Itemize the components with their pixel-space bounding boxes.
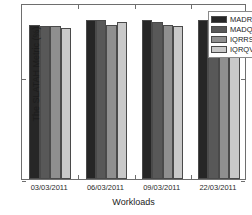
bar-madqvf-1: [40, 26, 50, 179]
chart-legend: MADRS MADQVF IQRRS IQRQVF: [208, 11, 252, 58]
legend-swatch-madrs: [211, 16, 227, 23]
plot-area: 05 The SLATAH Metric (%) MADRS MADQVF IQ…: [21, 4, 246, 180]
bar-madrs-4: [198, 20, 208, 179]
bar-madqvf-2: [96, 20, 106, 179]
legend-item[interactable]: IQRRS: [211, 35, 252, 45]
legend-item[interactable]: IQRQVF: [211, 45, 252, 55]
bar-iqrrs-1: [50, 26, 60, 179]
legend-swatch-madqvf: [211, 26, 227, 33]
bar-iqrqvf-3: [173, 26, 183, 179]
legend-swatch-iqrrs: [211, 36, 227, 43]
x-axis-tick-labels: 03/03/201106/03/201109/03/201122/03/2011: [21, 182, 246, 196]
legend-label-iqrrs: IQRRS: [230, 35, 252, 44]
bar-madrs-3: [142, 20, 152, 179]
bar-iqrqvf-1: [61, 28, 71, 179]
bar-iqrrs-2: [106, 25, 116, 180]
y-axis-label: The SLATAH Metric (%): [31, 4, 41, 144]
x-tick-label: 06/03/2011: [77, 182, 133, 196]
legend-label-iqrqvf: IQRQVF: [230, 45, 252, 54]
x-tick-label: 09/03/2011: [134, 182, 190, 196]
legend-item[interactable]: MADQVF: [211, 25, 252, 35]
legend-swatch-iqrqvf: [211, 46, 227, 53]
legend-label-madqvf: MADQVF: [230, 25, 252, 34]
x-tick-label: 22/03/2011: [190, 182, 246, 196]
figure-canvas: 05 The SLATAH Metric (%) MADRS MADQVF IQ…: [0, 0, 252, 215]
legend-label-madrs: MADRS: [230, 15, 252, 24]
x-tick-label: 03/03/2011: [21, 182, 77, 196]
bar-madqvf-3: [152, 22, 162, 179]
bar-madrs-2: [86, 20, 96, 179]
bar-iqrrs-3: [163, 25, 173, 180]
x-axis-label: Workloads: [21, 197, 246, 207]
legend-item[interactable]: MADRS: [211, 15, 252, 25]
bar-iqrqvf-2: [117, 22, 127, 179]
